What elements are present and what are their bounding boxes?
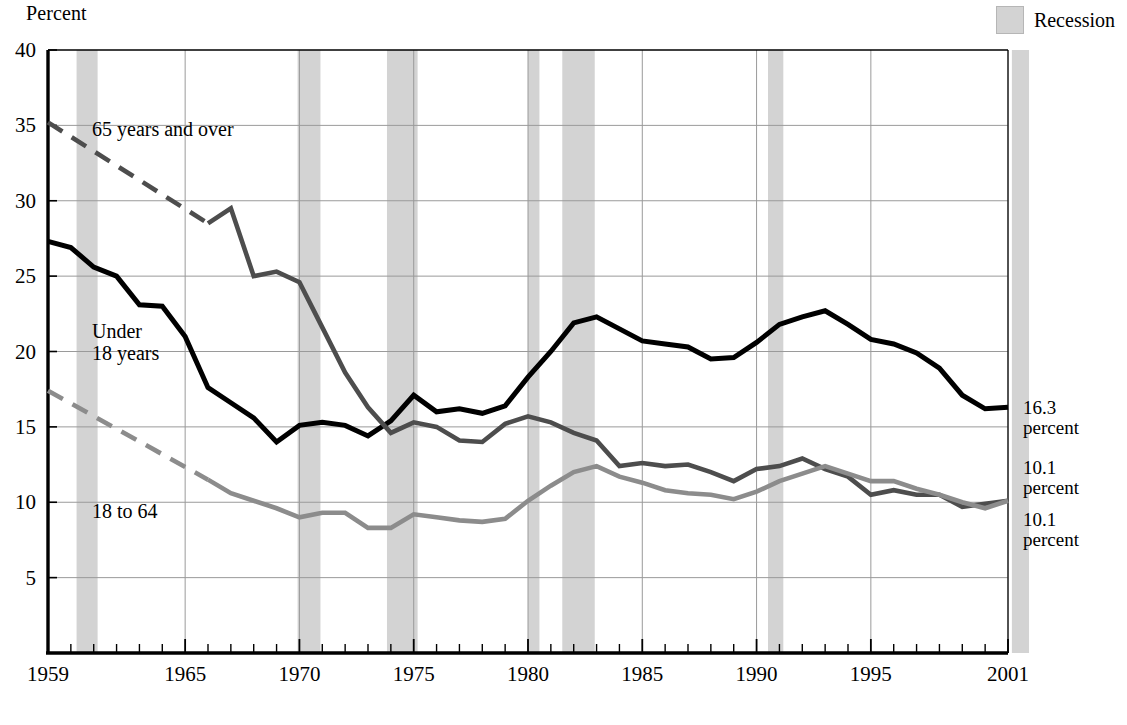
poverty-rate-by-age-chart: Percent Recession 510152025303540 195919… — [0, 0, 1127, 725]
series-line-dashed — [48, 391, 208, 480]
end-label-value: 10.1 — [1023, 458, 1079, 478]
under-18-label-line1: Under — [92, 320, 159, 342]
under-18-label: Under18 years — [92, 320, 159, 365]
end-label-unit: percent — [1023, 530, 1079, 550]
under-18-label-line2: 18 years — [92, 342, 159, 364]
end-label-18-to-64: 10.1percent — [1023, 510, 1079, 550]
18-to-64-label: 18 to 64 — [92, 500, 158, 522]
end-label-value: 10.1 — [1023, 510, 1079, 530]
series-line-solid — [208, 466, 1008, 528]
end-value-labels: 16.3percent10.1percent10.1percent — [1015, 0, 1127, 725]
65-and-over-label: 65 years and over — [92, 118, 234, 140]
end-label-under-18: 16.3percent — [1023, 398, 1079, 438]
end-label-value: 16.3 — [1023, 398, 1079, 418]
end-label-unit: percent — [1023, 418, 1079, 438]
plot-area — [0, 0, 1127, 725]
end-label-unit: percent — [1023, 478, 1079, 498]
series-line-solid — [208, 208, 1008, 506]
end-label-65-and-over: 10.1percent — [1023, 458, 1079, 498]
